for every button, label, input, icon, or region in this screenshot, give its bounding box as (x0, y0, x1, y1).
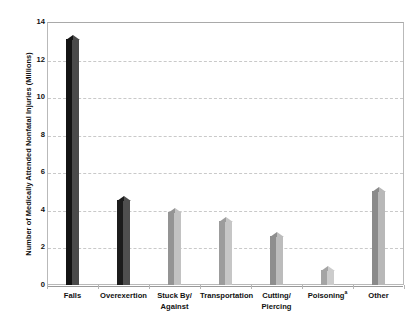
x-tick-mark (47, 285, 48, 289)
bar-top-cap (372, 187, 386, 192)
bar-front-face (321, 270, 328, 285)
bar-top-cap (270, 232, 284, 237)
bar[interactable] (117, 200, 131, 285)
x-axis-ticks (47, 285, 404, 289)
bar-cap-left (270, 232, 277, 237)
x-category-label-line: Transportation (200, 291, 251, 302)
bar-group[interactable] (270, 22, 284, 285)
y-axis-ticks: 02468101214 (0, 22, 45, 285)
bar-chart-figure: Number of Medically Attended Nonfatal In… (0, 0, 412, 330)
y-tick-label: 10 (5, 93, 45, 102)
bar[interactable] (321, 270, 335, 285)
x-category-label: Other (353, 291, 404, 302)
bar-side-face (123, 200, 130, 285)
y-tick-label: 4 (5, 205, 45, 214)
bar[interactable] (168, 212, 182, 285)
x-axis-labels: FallsOverexertionStuck By/AgainstTranspo… (47, 291, 404, 327)
x-category-label-line: Other (353, 291, 404, 302)
bar-group[interactable] (117, 22, 131, 285)
x-category-label-line: Poisoninga (302, 291, 353, 302)
x-category-label: Overexertion (98, 291, 149, 302)
y-tick-label: 12 (5, 55, 45, 64)
bar[interactable] (372, 191, 386, 285)
bar[interactable] (66, 39, 80, 285)
bar-cap-left (372, 187, 379, 192)
bar-group[interactable] (168, 22, 182, 285)
x-tick-mark (200, 285, 201, 289)
bar-side-face (174, 212, 181, 285)
x-tick-mark (98, 285, 99, 289)
bar-top-cap (117, 196, 131, 201)
x-category-label: Stuck By/Against (149, 291, 200, 312)
bar-cap-left (219, 217, 226, 222)
x-category-label: Cutting/Piercing (251, 291, 302, 312)
footnote-marker: a (344, 289, 347, 295)
x-category-label-line: Falls (47, 291, 98, 302)
bar-side-face (276, 236, 283, 285)
bar-side-face (327, 270, 334, 285)
bar-group[interactable] (321, 22, 335, 285)
bar-side-face (225, 221, 232, 285)
x-tick-mark (302, 285, 303, 289)
bar-front-face (117, 200, 124, 285)
x-category-label: Falls (47, 291, 98, 302)
bar-top-cap (219, 217, 233, 222)
x-category-label-line: Stuck By/ (149, 291, 200, 302)
x-category-label-line: Cutting/ (251, 291, 302, 302)
bar-cap-right (73, 35, 80, 40)
bar-cap-right (175, 208, 182, 213)
y-tick-label: 14 (5, 17, 45, 26)
bar-cap-left (117, 196, 124, 201)
x-category-label: Transportation (200, 291, 251, 302)
bar-cap-right (124, 196, 131, 201)
bar-cap-right (277, 232, 284, 237)
x-category-label-line: Against (149, 302, 200, 313)
bar-side-face (72, 39, 79, 285)
y-tick-label: 6 (5, 168, 45, 177)
y-tick-label: 8 (5, 130, 45, 139)
bar[interactable] (219, 221, 233, 285)
x-category-label-line: Piercing (251, 302, 302, 313)
bar-top-cap (168, 208, 182, 213)
bar-cap-right (379, 187, 386, 192)
x-tick-mark (404, 285, 405, 289)
bar-cap-right (328, 266, 335, 271)
bar-group[interactable] (66, 22, 80, 285)
bar[interactable] (270, 236, 284, 285)
bar-side-face (378, 191, 385, 285)
bar-front-face (168, 212, 175, 285)
bar-cap-left (321, 266, 328, 271)
x-category-label: Poisoninga (302, 291, 353, 302)
bar-cap-right (226, 217, 233, 222)
bars-layer (47, 22, 404, 285)
y-tick-label: 2 (5, 243, 45, 252)
bar-front-face (66, 39, 73, 285)
x-tick-mark (251, 285, 252, 289)
bar-group[interactable] (219, 22, 233, 285)
x-category-label-line: Overexertion (98, 291, 149, 302)
x-tick-mark (149, 285, 150, 289)
bar-front-face (219, 221, 226, 285)
bar-group[interactable] (372, 22, 386, 285)
bar-front-face (372, 191, 379, 285)
x-tick-mark (353, 285, 354, 289)
y-tick-label: 0 (5, 280, 45, 289)
bar-cap-left (66, 35, 73, 40)
bar-top-cap (321, 266, 335, 271)
bar-cap-left (168, 208, 175, 213)
bar-front-face (270, 236, 277, 285)
bar-top-cap (66, 35, 80, 40)
